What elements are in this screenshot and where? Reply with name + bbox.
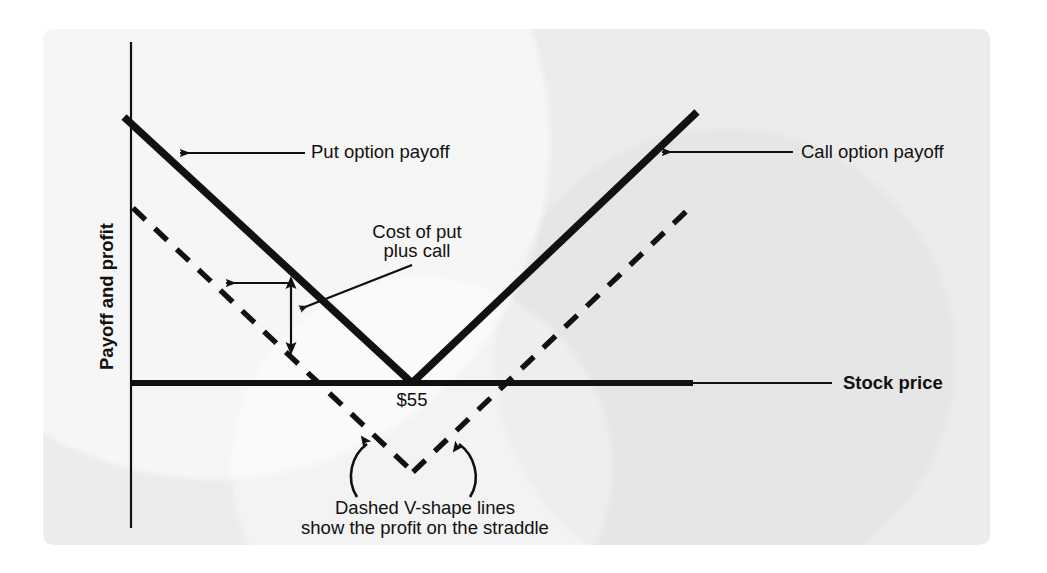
x-axis-label: Stock price	[843, 373, 943, 394]
chart-canvas	[0, 0, 1047, 573]
dashed-v-left-curved-arrow	[351, 444, 367, 497]
cost-annotation-leader	[300, 265, 412, 309]
cost-of-put-label-line2: plus call	[337, 241, 497, 262]
call-option-payoff-label: Call option payoff	[801, 142, 944, 163]
y-axis-label: Payoff and profit	[96, 223, 118, 370]
straddle-payoff-figure: Payoff and profit Stock price Put option…	[0, 0, 1047, 573]
dashed-v-right-curved-arrow	[459, 444, 476, 497]
put-option-payoff-label: Put option payoff	[311, 142, 450, 163]
dashed-v-caption-line2: show the profit on the straddle	[255, 518, 595, 539]
strike-price-label: $55	[370, 390, 454, 411]
dashed-v-caption-line1: Dashed V-shape lines	[275, 498, 575, 519]
